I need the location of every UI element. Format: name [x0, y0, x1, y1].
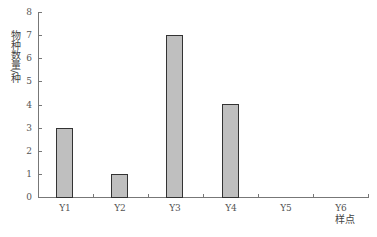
y-tick-label: 1	[22, 169, 32, 179]
x-tick	[148, 194, 149, 197]
y-tick-label: 8	[22, 7, 32, 17]
y-tick	[38, 197, 42, 198]
bar-y3	[166, 35, 183, 198]
x-tick-label: Y1	[50, 203, 80, 213]
y-tick-label: 6	[22, 53, 32, 63]
x-tick-label: Y4	[216, 203, 246, 213]
y-tick-label: 5	[22, 76, 32, 86]
x-tick	[93, 194, 94, 197]
x-axis	[38, 197, 369, 198]
bar-y4	[222, 104, 239, 198]
x-tick-label: Y3	[160, 203, 190, 213]
x-tick	[203, 194, 204, 197]
y-tick-label: 0	[22, 192, 32, 202]
x-tick	[313, 194, 314, 197]
y-axis-label: 物种数量/种	[6, 30, 20, 83]
y-tick	[38, 105, 42, 106]
y-tick-label: 4	[22, 100, 32, 110]
x-tick	[368, 194, 369, 197]
y-tick-label: 3	[22, 123, 32, 133]
x-tick-label: Y2	[105, 203, 135, 213]
x-axis-label: 样点	[335, 211, 355, 226]
y-tick	[38, 81, 42, 82]
y-tick	[38, 58, 42, 59]
bar-y1	[56, 128, 73, 198]
y-tick	[38, 151, 42, 152]
y-tick	[38, 35, 42, 36]
x-tick	[258, 194, 259, 197]
bar-chart: 物种数量/种 0 1 2 3 4 5 6 7 8 Y1 Y2 Y3 Y4 Y5 …	[0, 0, 377, 237]
y-tick	[38, 12, 42, 13]
x-tick-label: Y5	[271, 203, 301, 213]
bar-y2	[111, 174, 128, 198]
y-tick	[38, 174, 42, 175]
y-tick-label: 2	[22, 146, 32, 156]
y-tick-label: 7	[22, 30, 32, 40]
y-tick	[38, 128, 42, 129]
